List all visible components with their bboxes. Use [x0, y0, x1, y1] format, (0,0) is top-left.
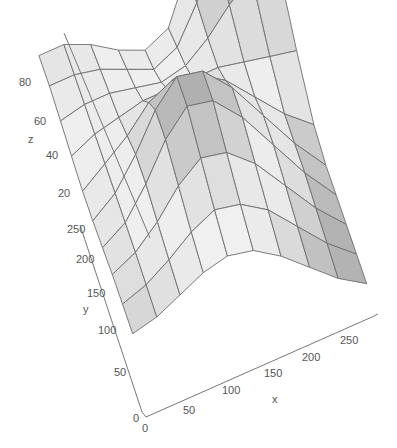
surface-plot: 80 60 z 40 20 250 200 150 y 100 50 0 0 5… — [0, 0, 397, 448]
x-tick-200: 200 — [302, 351, 320, 363]
x-axis-end-tick — [372, 314, 378, 317]
z-tick-40: 40 — [46, 149, 58, 161]
y-tick-250: 250 — [67, 223, 85, 235]
y-tick-150: 150 — [87, 287, 105, 299]
y-tick-200: 200 — [76, 253, 94, 265]
origin-tick — [142, 412, 146, 417]
y-axis-label: y — [83, 303, 89, 315]
z-tick-60: 60 — [34, 115, 46, 127]
y-tick-100: 100 — [98, 324, 116, 336]
x-tick-150: 150 — [264, 367, 282, 379]
x-tick-100: 100 — [222, 384, 240, 396]
y-tick-0: 0 — [133, 412, 139, 424]
x-tick-250: 250 — [340, 334, 358, 346]
y-tick-50: 50 — [114, 366, 126, 378]
z-tick-80: 80 — [19, 76, 31, 88]
z-tick-20: 20 — [58, 187, 70, 199]
x-axis-label: x — [272, 393, 278, 405]
x-tick-50: 50 — [183, 404, 195, 416]
z-axis-label: z — [28, 133, 34, 145]
x-axis-line — [146, 317, 372, 417]
surface-mesh — [39, 0, 367, 334]
x-tick-0: 0 — [142, 422, 148, 434]
